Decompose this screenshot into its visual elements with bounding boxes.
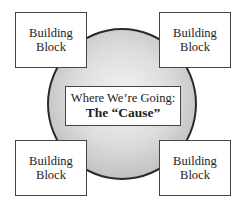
block-label-line1: Building (173, 26, 217, 40)
building-block-top-left: Building Block (15, 12, 87, 68)
center-label-line1: Where We’re Going: (71, 91, 175, 105)
center-label-line2: The “Cause” (86, 105, 161, 121)
block-label-line2: Block (36, 168, 66, 182)
block-label-line2: Block (180, 40, 210, 54)
center-cause-box: Where We’re Going: The “Cause” (65, 86, 181, 126)
block-label-line1: Building (29, 154, 73, 168)
block-label-line1: Building (29, 26, 73, 40)
block-label-line2: Block (36, 40, 66, 54)
building-block-bottom-left: Building Block (15, 140, 87, 196)
block-label-line2: Block (180, 168, 210, 182)
block-label-line1: Building (173, 154, 217, 168)
building-block-top-right: Building Block (159, 12, 231, 68)
building-block-bottom-right: Building Block (159, 140, 231, 196)
